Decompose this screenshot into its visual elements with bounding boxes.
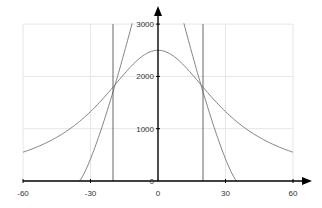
y-tick-label: 1000 — [136, 125, 154, 134]
x-axis-arrow-icon — [302, 177, 312, 185]
chart: -60-30030600100020003000 — [0, 0, 322, 208]
x-tick-label: -30 — [85, 189, 97, 198]
axes — [23, 6, 312, 185]
y-axis-arrow-icon — [154, 6, 162, 16]
y-tick-label: 2000 — [136, 72, 154, 81]
x-tick-label: 0 — [156, 189, 161, 198]
x-tick-label: 60 — [289, 189, 298, 198]
y-tick-label: 3000 — [136, 20, 154, 29]
x-tick-label: -60 — [17, 189, 29, 198]
y-tick-label: 0 — [150, 177, 155, 186]
steep-curve-right — [184, 23, 237, 181]
x-tick-label: 30 — [221, 189, 230, 198]
steep-curve-left — [79, 23, 132, 181]
